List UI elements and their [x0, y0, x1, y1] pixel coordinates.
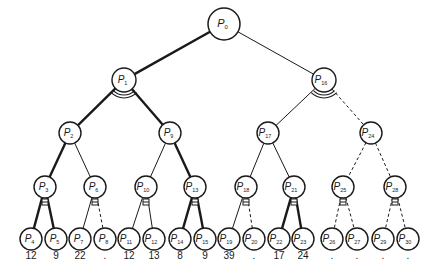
- tree-node-p23: P23: [292, 228, 314, 250]
- tree-node-p15: P15: [194, 228, 216, 250]
- leaf-value-p15: 9: [202, 250, 208, 261]
- edge-p16-p24: [332, 89, 364, 125]
- edge-p2-p3: [50, 143, 66, 177]
- leaf-value-p19: 39: [223, 250, 235, 261]
- tree-node-p16: P16: [312, 68, 336, 92]
- edge-p24-p25: [348, 143, 366, 177]
- tree-node-p8: P8: [94, 228, 116, 250]
- tree-node-p9: P9: [159, 122, 181, 144]
- tree-node-p21: P21: [283, 176, 305, 198]
- edge-p10-p11: [132, 197, 142, 228]
- edge-p3-p4: [34, 198, 42, 229]
- leaf-value-p4: 12: [25, 250, 37, 261]
- leaf-value-p30: .: [407, 250, 410, 261]
- edge-p25-p27: [346, 198, 354, 229]
- tree-node-p24: P24: [360, 122, 382, 144]
- tree-node-p0: P0: [208, 8, 240, 40]
- leaf-value-p12: 13: [148, 250, 160, 261]
- leaf-value-p14: 8: [177, 250, 183, 261]
- leaf-value-p7: 22: [74, 250, 86, 261]
- tree-node-p26: P26: [321, 228, 343, 250]
- edge-p17-p18: [250, 143, 264, 177]
- tree-node-p4: P4: [20, 228, 42, 250]
- tree-node-p3: P3: [34, 176, 56, 198]
- edge-p0-p16: [238, 32, 314, 74]
- tree-node-p19: P19: [218, 228, 240, 250]
- leaf-value-p29: .: [382, 250, 385, 261]
- edge-p16-p17: [276, 88, 315, 125]
- edge-p13-p14: [183, 198, 192, 229]
- tree-node-p1: P1: [112, 68, 136, 92]
- edge-p28-p29: [385, 198, 392, 229]
- tree-node-p10: P10: [135, 176, 157, 198]
- leaf-value-p11: 12: [123, 250, 135, 261]
- leaf-value-p27: .: [356, 250, 359, 261]
- leaf-value-p23: 24: [297, 250, 309, 261]
- leaf-value-p5: 9: [53, 250, 59, 261]
- edge-p6-p7: [83, 198, 92, 229]
- tree-node-p25: P25: [332, 176, 354, 198]
- leaf-value-p8: .: [104, 250, 107, 261]
- edge-p0-p1: [134, 32, 210, 74]
- edge-p9-p10: [150, 143, 165, 177]
- edge-p17-p21: [273, 143, 289, 177]
- leaf-value-p22: 17: [273, 250, 285, 261]
- tree-node-p12: P12: [143, 228, 165, 250]
- tree-node-p18: P18: [235, 176, 257, 198]
- tree-node-p17: P17: [257, 122, 279, 144]
- tree-node-p22: P22: [268, 228, 290, 250]
- tree-node-p14: P14: [169, 228, 191, 250]
- tree-node-p28: P28: [384, 176, 406, 198]
- tree-node-p27: P27: [346, 228, 368, 250]
- leaf-value-p26: .: [331, 250, 334, 261]
- tree-nodes: P0P1P16P2P9P17P24P3P6P10P13P18P21P25P28P…: [20, 8, 419, 250]
- tree-node-p30: P30: [397, 228, 419, 250]
- tree-node-p11: P11: [118, 228, 140, 250]
- edge-p9-p13: [175, 143, 191, 177]
- leaf-values: 12922.12138939.1724....: [25, 250, 409, 261]
- edge-p21-p22: [282, 198, 291, 229]
- edge-p1-p2: [78, 88, 116, 125]
- tree-edges: [34, 32, 405, 229]
- tree-node-p7: P7: [69, 228, 91, 250]
- tree-node-p20: P20: [243, 228, 265, 250]
- tree-node-p29: P29: [372, 228, 394, 250]
- tree-node-p5: P5: [45, 228, 67, 250]
- edge-p24-p28: [375, 143, 390, 177]
- leaf-value-p20: .: [253, 250, 256, 261]
- tree-node-p13: P13: [184, 176, 206, 198]
- tree-node-p6: P6: [84, 176, 106, 198]
- tree-node-p2: P2: [59, 122, 81, 144]
- edge-p28-p30: [398, 198, 406, 229]
- binary-tree-diagram: P0P1P16P2P9P17P24P3P6P10P13P18P21P25P28P…: [0, 0, 439, 275]
- edge-p2-p6: [75, 143, 91, 177]
- edge-p1-p9: [132, 89, 163, 125]
- edge-p18-p19: [232, 197, 242, 228]
